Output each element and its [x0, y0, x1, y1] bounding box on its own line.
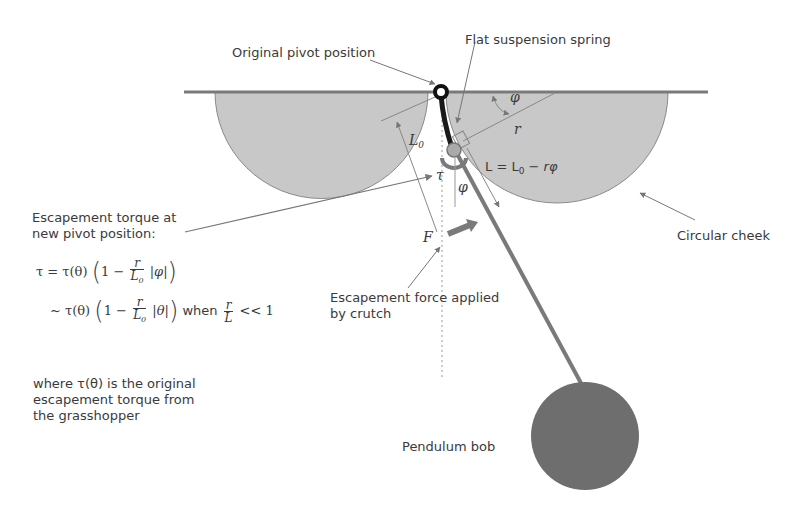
- label-flat-spring: Flat suspension spring: [465, 32, 611, 47]
- label-circular-cheek: Circular cheek: [677, 228, 771, 243]
- symbol-phi-lower: φ: [458, 179, 468, 195]
- original-pivot-ring: [435, 86, 447, 98]
- label-escapement-force-1: Escapement force applied: [330, 290, 499, 305]
- footnote-line-2: escapement torque from: [33, 392, 196, 408]
- symbol-tau: τ: [436, 167, 444, 183]
- leader-circular-cheek: [640, 193, 695, 220]
- right-circular-cheek: [446, 92, 668, 203]
- label-escapement-force-2: by crutch: [330, 306, 391, 321]
- pendulum-suspension-diagram: Original pivot position Flat suspension …: [0, 0, 807, 510]
- left-circular-cheek: [215, 92, 428, 199]
- symbol-F: F: [422, 229, 434, 245]
- symbol-phi-top: φ: [510, 89, 520, 105]
- label-escapement-torque-1: Escapement torque at: [32, 210, 176, 225]
- footnote-line-3: the grasshopper: [33, 408, 196, 424]
- torque-footnote: where τ(θ) is the original escapement to…: [33, 376, 196, 424]
- symbol-L0: L0: [408, 132, 424, 150]
- label-original-pivot: Original pivot position: [232, 45, 375, 60]
- pendulum-bob: [531, 382, 639, 490]
- escapement-force-arrow: [448, 225, 470, 234]
- label-pendulum-bob: Pendulum bob: [402, 439, 495, 454]
- torque-equation-1: τ = τ(θ) (1 − rL0 |φ|): [36, 257, 177, 287]
- new-pivot-circle: [447, 143, 461, 157]
- leader-escapement-force: [408, 247, 440, 288]
- leader-original-pivot: [370, 60, 435, 84]
- label-escapement-torque-2: new pivot position:: [32, 226, 156, 241]
- footnote-line-1: where τ(θ) is the original: [33, 376, 196, 392]
- torque-equation-2: ~ τ(θ) (1 − rL0 |θ|) when rL << 1: [50, 296, 274, 326]
